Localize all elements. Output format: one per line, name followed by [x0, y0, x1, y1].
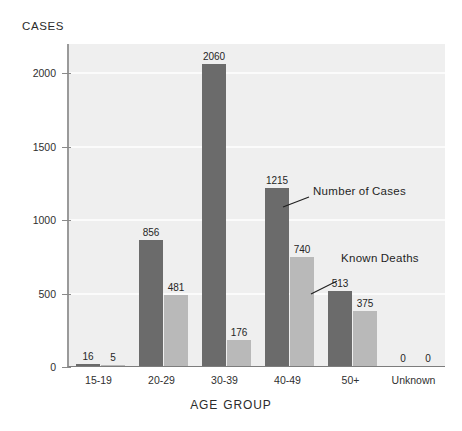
- bar-value-label: 16: [82, 351, 93, 362]
- x-axis-title-word2: GROUP: [223, 398, 272, 412]
- y-tick-label: 1500: [33, 141, 56, 153]
- y-tick-label: 500: [38, 288, 56, 300]
- bar-15-19-deaths: 5: [101, 365, 125, 366]
- y-tick-mark: [62, 294, 71, 295]
- plot-area: 0500100015002000165856481206017612157405…: [67, 44, 445, 367]
- x-tick-label-20-29: 20-29: [148, 374, 175, 386]
- annotation-known-deaths: KnownDeaths: [341, 252, 419, 264]
- bar-40-49-deaths: 740: [290, 257, 314, 366]
- bar-value-label: 740: [294, 244, 311, 255]
- bar-value-label: 176: [231, 327, 248, 338]
- y-tick-mark: [62, 367, 71, 368]
- annotation-number-of-cases: NumberofCases: [313, 185, 406, 197]
- bar-30-39-cases: 2060: [202, 64, 226, 366]
- x-tick-label-40-49: 40-49: [274, 374, 301, 386]
- bar-40-49-cases: 1215: [265, 188, 289, 366]
- gridline: [69, 293, 445, 295]
- gridline: [69, 72, 445, 74]
- bar-value-label: 0: [425, 353, 431, 364]
- y-tick-mark: [62, 147, 71, 148]
- x-tick-label-15-19: 15-19: [85, 374, 112, 386]
- x-tick-label-unknown: Unknown: [392, 374, 436, 386]
- y-tick-label: 1000: [33, 214, 56, 226]
- x-tick-label-30-39: 30-39: [211, 374, 238, 386]
- annotation-deaths-word1: Known: [341, 252, 378, 264]
- bar-value-label: 856: [143, 227, 160, 238]
- chart-page: CASES 0500100015002000165856481206017612…: [0, 0, 462, 431]
- gridline: [69, 219, 445, 221]
- bar-value-label: 5: [110, 352, 116, 363]
- annotation-deaths-word2: Deaths: [381, 252, 419, 264]
- y-tick-mark: [62, 220, 71, 221]
- bar-value-label: 375: [357, 298, 374, 309]
- bar-value-label: 0: [400, 353, 406, 364]
- bar-20-29-cases: 856: [139, 240, 163, 366]
- bar-20-29-deaths: 481: [164, 295, 188, 366]
- bar-50plus-deaths: 375: [353, 311, 377, 366]
- plot-inner: 0500100015002000165856481206017612157405…: [69, 44, 445, 366]
- x-axis-title: AGEGROUP: [0, 398, 462, 412]
- y-axis-title: CASES: [22, 20, 64, 32]
- y-tick-label: 0: [50, 361, 56, 373]
- bar-30-39-deaths: 176: [227, 340, 251, 366]
- annotation-cases-word1: Number: [313, 185, 356, 197]
- gridline: [69, 146, 445, 148]
- x-tick-label-50plus: 50+: [342, 374, 360, 386]
- annotation-cases-word2: of: [359, 185, 369, 197]
- bar-value-label: 1215: [266, 175, 288, 186]
- x-axis-title-word1: AGE: [190, 398, 218, 412]
- y-tick-label: 2000: [33, 67, 56, 79]
- bar-value-label: 513: [332, 278, 349, 289]
- bar-15-19-cases: 16: [76, 364, 100, 366]
- bar-value-label: 481: [168, 282, 185, 293]
- bar-value-label: 2060: [203, 51, 225, 62]
- y-tick-mark: [62, 73, 71, 74]
- bar-50plus-cases: 513: [328, 291, 352, 366]
- annotation-cases-word3: Cases: [372, 185, 406, 197]
